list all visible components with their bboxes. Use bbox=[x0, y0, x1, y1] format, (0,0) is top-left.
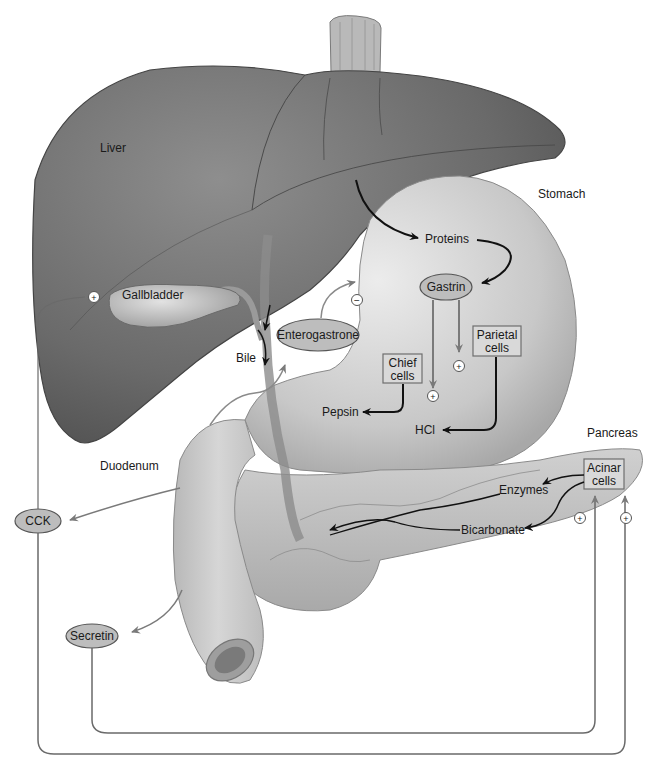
liver-label: Liver bbox=[100, 141, 126, 155]
svg-text:Enterogastrone: Enterogastrone bbox=[277, 328, 359, 342]
svg-text:+: + bbox=[623, 514, 628, 524]
parietal-cells-box: Parietal cells bbox=[473, 326, 521, 356]
svg-text:cells: cells bbox=[390, 369, 414, 383]
svg-text:cells: cells bbox=[485, 341, 509, 355]
gastrin-node: Gastrin bbox=[420, 274, 472, 300]
minus-sign-enterogastrone: − bbox=[352, 295, 363, 306]
gallbladder-label: Gallbladder bbox=[122, 288, 183, 302]
enterogastrone-to-stomach-arrow bbox=[321, 282, 355, 318]
stomach-label: Stomach bbox=[538, 187, 585, 201]
plus-sign-gallbladder: + bbox=[89, 292, 100, 303]
svg-text:+: + bbox=[91, 293, 96, 303]
svg-text:CCK: CCK bbox=[25, 514, 50, 528]
pepsin-label: Pepsin bbox=[322, 405, 359, 419]
duodenum-to-secretin-arrow bbox=[132, 590, 182, 632]
bile-label: Bile bbox=[236, 351, 256, 365]
svg-text:+: + bbox=[430, 392, 435, 402]
bicarbonate-label: Bicarbonate bbox=[461, 523, 525, 537]
proteins-label: Proteins bbox=[425, 232, 469, 246]
plus-sign-cck-acinar: + bbox=[621, 513, 632, 524]
svg-text:Parietal: Parietal bbox=[477, 328, 518, 342]
esophagus bbox=[330, 16, 381, 72]
chief-cells-box: Chief cells bbox=[383, 354, 422, 383]
duodenum-to-cck-arrow bbox=[70, 488, 180, 520]
plus-sign-chief: + bbox=[428, 391, 439, 402]
svg-text:+: + bbox=[577, 514, 582, 524]
enterogastrone-node: Enterogastrone bbox=[277, 319, 359, 351]
svg-text:Gastrin: Gastrin bbox=[427, 280, 466, 294]
cck-node: CCK bbox=[15, 509, 61, 533]
acinar-cells-box: Acinar cells bbox=[584, 459, 624, 489]
plus-sign-secretin-acinar: + bbox=[575, 513, 586, 524]
digestive-regulation-diagram: Liver Stomach Gallbladder Bile Duodenum … bbox=[0, 0, 653, 770]
enzymes-label: Enzymes bbox=[499, 483, 548, 497]
secretin-node: Secretin bbox=[66, 624, 118, 648]
svg-text:−: − bbox=[354, 295, 360, 306]
svg-text:+: + bbox=[456, 362, 461, 372]
hcl-label: HCl bbox=[415, 423, 435, 437]
duodenum-label: Duodenum bbox=[100, 459, 159, 473]
plus-sign-parietal: + bbox=[454, 361, 465, 372]
svg-text:Acinar: Acinar bbox=[587, 461, 621, 475]
svg-text:cells: cells bbox=[592, 474, 616, 488]
pancreas-label: Pancreas bbox=[587, 426, 638, 440]
svg-text:Chief: Chief bbox=[388, 356, 417, 370]
svg-text:Secretin: Secretin bbox=[70, 629, 114, 643]
